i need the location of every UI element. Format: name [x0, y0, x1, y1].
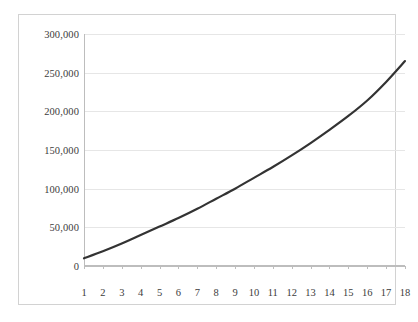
x-axis-tick-label: 15 — [343, 287, 354, 298]
x-axis-tick-mark — [141, 266, 142, 269]
plot-area: 050,000100,000150,000200,000250,000300,0… — [84, 34, 405, 266]
x-axis-tick-label: 18 — [400, 287, 411, 298]
x-axis-tick-mark — [103, 266, 104, 269]
x-axis-tick-mark — [273, 266, 274, 269]
x-axis-tick-mark — [160, 266, 161, 269]
x-axis-tick-mark — [292, 266, 293, 269]
gridline — [84, 266, 405, 267]
x-axis-tick-mark — [178, 266, 179, 269]
x-axis-tick-label: 13 — [305, 287, 316, 298]
x-axis-tick-label: 11 — [268, 287, 278, 298]
y-axis-tick-label: 300,000 — [44, 29, 79, 40]
x-axis-tick-label: 1 — [81, 287, 86, 298]
x-axis-tick-mark — [311, 266, 312, 269]
y-axis-tick-label: 100,000 — [44, 183, 79, 194]
x-axis-tick-label: 3 — [119, 287, 124, 298]
chart-figure: 050,000100,000150,000200,000250,000300,0… — [0, 0, 418, 322]
chart-frame: 050,000100,000150,000200,000250,000300,0… — [18, 14, 396, 305]
x-axis-tick-mark — [235, 266, 236, 269]
y-axis-tick-label: 0 — [74, 261, 79, 272]
x-axis-tick-mark — [254, 266, 255, 269]
x-axis-tick-label: 17 — [381, 287, 392, 298]
y-axis-tick-label: 200,000 — [44, 106, 79, 117]
x-axis-tick-mark — [367, 266, 368, 269]
x-axis-tick-mark — [329, 266, 330, 269]
y-axis-tick-label: 50,000 — [50, 222, 79, 233]
x-axis-tick-label: 10 — [249, 287, 260, 298]
y-axis-tick-label: 250,000 — [44, 67, 79, 78]
x-axis-tick-mark — [122, 266, 123, 269]
x-axis-tick-mark — [348, 266, 349, 269]
x-axis-tick-label: 16 — [362, 287, 373, 298]
x-axis-tick-label: 7 — [195, 287, 200, 298]
x-axis-tick-label: 5 — [157, 287, 162, 298]
x-axis-tick-label: 9 — [232, 287, 237, 298]
line-series-svg — [84, 34, 405, 266]
x-axis-tick-label: 2 — [100, 287, 105, 298]
x-axis-tick-mark — [84, 266, 85, 269]
line-series-path — [84, 61, 405, 258]
x-axis-tick-mark — [216, 266, 217, 269]
x-axis-tick-label: 12 — [286, 287, 297, 298]
x-axis-tick-label: 6 — [176, 287, 181, 298]
x-axis-tick-mark — [197, 266, 198, 269]
x-axis-tick-label: 14 — [324, 287, 335, 298]
x-axis-tick-mark — [386, 266, 387, 269]
y-axis-tick-label: 150,000 — [44, 145, 79, 156]
x-axis-tick-label: 8 — [214, 287, 219, 298]
x-axis-tick-mark — [405, 266, 406, 269]
x-axis-tick-label: 4 — [138, 287, 143, 298]
